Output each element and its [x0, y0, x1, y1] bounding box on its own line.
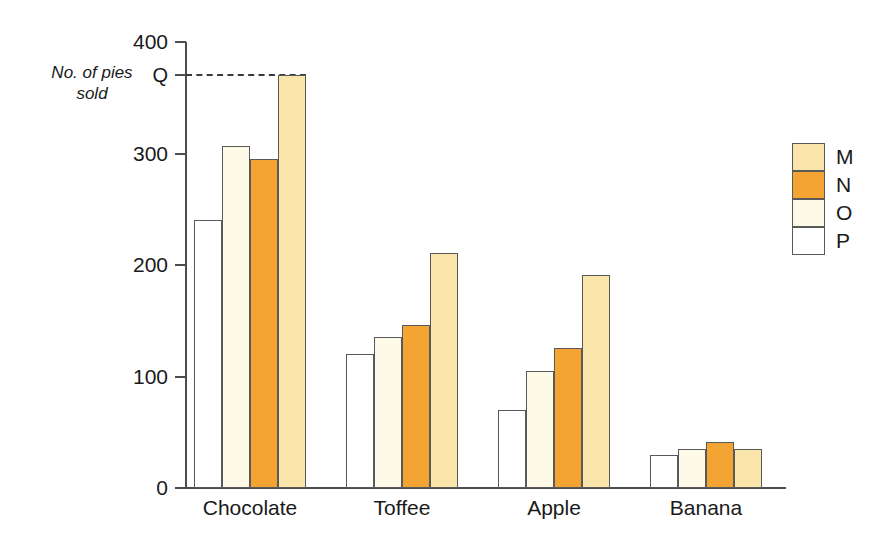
legend-label-N: N: [836, 173, 851, 197]
bar-toffee-M: [430, 253, 458, 488]
legend-swatch-O: [792, 199, 825, 227]
q-tick-label: Q: [152, 64, 168, 87]
x-label-apple: Apple: [527, 496, 581, 520]
legend-swatch-P: [792, 227, 825, 255]
bar-toffee-P: [346, 354, 374, 488]
bar-toffee-N: [402, 325, 430, 488]
x-label-banana: Banana: [670, 496, 742, 520]
legend-swatch-M: [792, 143, 825, 171]
y-tick-100: 100: [175, 376, 186, 378]
bar-apple-O: [526, 371, 554, 488]
y-tick-200: 200: [175, 264, 186, 266]
q-tick: Q: [175, 74, 186, 76]
y-tick-0: 0: [175, 487, 186, 489]
bar-chocolate-M: [278, 75, 306, 488]
y-axis-title: No. of pies sold: [22, 62, 162, 104]
bar-chocolate-P: [194, 220, 222, 488]
bar-banana-N: [706, 442, 734, 488]
bar-chart: No. of pies sold 0100200300400 Q Chocola…: [0, 0, 878, 555]
y-tick-label-100: 100: [133, 365, 168, 389]
y-tick-400: 400: [175, 41, 186, 43]
legend-label-P: P: [836, 229, 850, 253]
legend-label-M: M: [836, 145, 854, 169]
x-label-toffee: Toffee: [374, 496, 431, 520]
plot-area: 0100200300400 Q ChocolateToffeeAppleBana…: [186, 42, 786, 488]
bar-chocolate-N: [250, 159, 278, 488]
x-label-chocolate: Chocolate: [203, 496, 298, 520]
y-tick-label-200: 200: [133, 253, 168, 277]
legend-label-O: O: [836, 201, 852, 225]
y-tick-label-0: 0: [156, 476, 168, 500]
legend-swatch-N: [792, 171, 825, 199]
bar-apple-P: [498, 410, 526, 488]
y-tick-label-400: 400: [133, 30, 168, 54]
y-tick-300: 300: [175, 153, 186, 155]
y-tick-label-300: 300: [133, 142, 168, 166]
bar-toffee-O: [374, 337, 402, 488]
bar-chocolate-O: [222, 146, 250, 488]
bar-apple-N: [554, 348, 582, 488]
bar-banana-M: [734, 449, 762, 488]
bar-banana-P: [650, 455, 678, 488]
bar-banana-O: [678, 449, 706, 488]
bar-apple-M: [582, 275, 610, 488]
